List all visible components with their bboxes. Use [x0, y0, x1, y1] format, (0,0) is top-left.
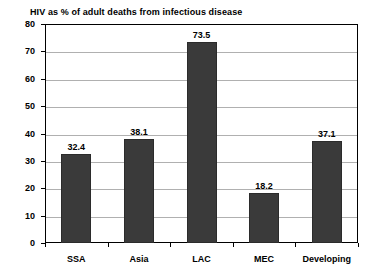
x-tick-mark-2 — [170, 243, 171, 247]
x-tick-label-mec: MEC — [254, 254, 274, 264]
bar-chart: HIV as % of adult deaths from infectious… — [0, 0, 367, 268]
y-tick-label-80: 80 — [25, 19, 35, 29]
x-tick-label-ssa: SSA — [67, 254, 86, 264]
gridline-50 — [46, 107, 357, 108]
x-tick-label-asia: Asia — [129, 254, 148, 264]
x-tick-mark-3 — [233, 243, 234, 247]
x-tick-mark-4 — [295, 243, 296, 247]
y-tick-label-50: 50 — [25, 101, 35, 111]
x-tick-mark-0 — [45, 243, 46, 247]
gridlines — [46, 25, 357, 242]
y-tick-label-40: 40 — [25, 129, 35, 139]
x-tick-mark-1 — [108, 243, 109, 247]
y-tick-label-30: 30 — [25, 156, 35, 166]
x-tick-mark-5 — [358, 243, 359, 247]
gridline-40 — [46, 135, 357, 136]
gridline-10 — [46, 217, 357, 218]
y-tick-label-60: 60 — [25, 74, 35, 84]
y-tick-label-10: 10 — [25, 211, 35, 221]
gridline-30 — [46, 162, 357, 163]
x-tick-label-developing: Developing — [302, 254, 351, 264]
gridline-70 — [46, 52, 357, 53]
chart-title: HIV as % of adult deaths from infectious… — [30, 7, 242, 17]
x-axis: SSAAsiaLACMECDeveloping — [45, 243, 358, 268]
gridline-60 — [46, 80, 357, 81]
gridline-20 — [46, 189, 357, 190]
y-tick-label-20: 20 — [25, 183, 35, 193]
x-tick-label-lac: LAC — [192, 254, 211, 264]
plot-area — [45, 24, 358, 243]
y-axis: 01020304050607080 — [0, 24, 45, 243]
y-tick-label-0: 0 — [30, 238, 35, 248]
y-tick-label-70: 70 — [25, 46, 35, 56]
